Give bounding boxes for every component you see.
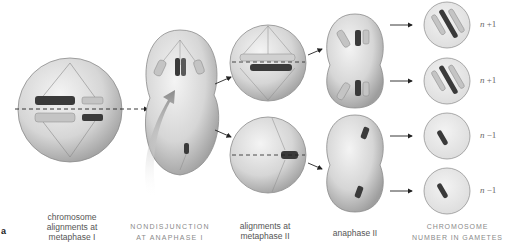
label-line: alignments at (22, 222, 122, 232)
meiosis-nondisjunction-diagram: n +1 n +1 n −1 n −1 chromosome alignment… (0, 0, 512, 246)
chromosome-light (240, 54, 295, 61)
chromosome-light-small (82, 97, 103, 104)
chromosome-dark (175, 58, 180, 76)
label-line: chromosome (22, 212, 122, 222)
gamete-3 (424, 113, 470, 159)
chromosome-dark (184, 143, 189, 154)
stage-label-anaphase-ii: anaphase II (320, 228, 390, 238)
cell-metaphase-ii-top (230, 25, 306, 101)
label-line: alignments at (225, 221, 305, 231)
gamete-count-label: n −1 (480, 130, 496, 140)
count-delta: +1 (485, 19, 497, 29)
chromosome-light-large (35, 113, 75, 122)
count-delta: −1 (485, 185, 497, 195)
count-delta: +1 (485, 75, 497, 85)
label-line: AT ANAPHASE I (120, 232, 220, 243)
chromosome-dark (250, 64, 292, 71)
gamete-2 (424, 58, 470, 104)
diagram-canvas (0, 0, 512, 246)
gamete-count-label: n −1 (480, 185, 496, 195)
cell-body (327, 115, 384, 212)
stage-label-gametes: CHROMOSOME NUMBER IN GAMETES (405, 221, 510, 243)
label-line: metaphase I (22, 232, 122, 242)
chromosome-dark (181, 58, 186, 76)
chromosome-dark (355, 30, 361, 46)
cell-metaphase-i (15, 58, 148, 162)
stage-label-anaphase-i: NONDISJUNCTION AT ANAPHASE I (120, 221, 220, 243)
chromosome-light (363, 30, 369, 44)
gamete-4 (424, 168, 470, 214)
label-line: NUMBER IN GAMETES (405, 232, 510, 243)
cell-anaphase-ii-top (327, 14, 384, 108)
label-line: metaphase II (225, 231, 305, 241)
label-line: CHROMOSOME (405, 221, 510, 232)
cell-body (18, 58, 122, 162)
cell-anaphase-ii-bottom (327, 115, 384, 212)
label-line: NONDISJUNCTION (120, 221, 220, 232)
arrow (308, 163, 322, 169)
cell-metaphase-ii-bottom (230, 117, 306, 193)
cell-anaphase-i (145, 30, 219, 198)
count-delta: −1 (485, 130, 497, 140)
stage-label-metaphase-i: chromosome alignments at metaphase I (22, 212, 122, 242)
chromosome-light (363, 82, 369, 96)
gamete-1 (424, 2, 470, 48)
arrow (308, 49, 322, 55)
chromosome-dark (355, 80, 361, 96)
gamete-count-label: n +1 (480, 19, 496, 29)
stage-label-metaphase-ii: alignments at metaphase II (225, 221, 305, 241)
arrow (215, 77, 231, 84)
cell-body (145, 30, 218, 175)
label-line: anaphase II (320, 228, 390, 238)
chromosome-dark-small (82, 114, 103, 121)
panel-letter: a (1, 226, 6, 236)
chromosome-dark-large (35, 96, 75, 105)
gamete-count-label: n +1 (480, 75, 496, 85)
